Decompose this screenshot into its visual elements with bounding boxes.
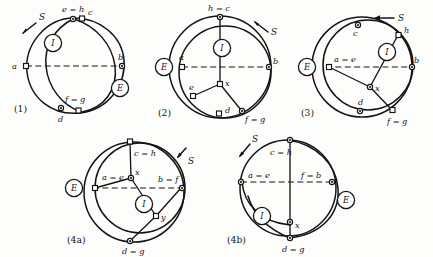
panel-4a-label-b-f: b = f [158,174,180,184]
panel-2-exterior-label: E [160,62,167,72]
panel-2-label-d: d [225,105,230,115]
panel-4b-point-c-h-dot [289,139,291,141]
panel-4a-point-c-h [128,139,133,144]
panel-1-label-top: e = h [62,4,84,14]
panel-3-seg-x-fg [370,87,392,110]
panel-3-point-c-dot [357,24,359,26]
panel-3-point-d-dot [359,110,361,112]
panel-1-point-c [80,16,85,21]
panel-1-point-d-dot [60,107,62,109]
panel-3-seg-x-h [370,35,398,87]
panel-3-exterior-label: E [303,62,310,72]
panel-1-label-b: b [118,52,123,62]
panel-1-point-a [24,64,29,69]
panel-3-point-h [396,33,401,38]
panel-1-label-d: d [58,114,63,124]
panel-3-label-b: b [414,55,419,65]
panel-4b-label-x: x [295,220,300,230]
panel-3-point-a-e [327,65,332,70]
panel-3-label-d: d [358,97,363,107]
panel-2-point-h-c-dot [219,16,221,18]
panel-4b-point-f-b-dot [331,181,333,183]
panel-4a-exterior-label: E [70,183,77,193]
panel-4a-seg-x-top [130,142,131,178]
panel-3-label-f-g: f = g [386,116,407,126]
panel-4a-point-a-e [93,186,98,191]
panel-2-point-f-g-dot [241,110,243,112]
panel-1-interior-label: I [50,38,55,48]
panel-1-point-f-g [76,108,81,113]
panel-2-point-x [218,82,223,87]
figure-canvas: I E S e = h c a b f = g d (1) [0,0,433,257]
panel-1-point-e-h-dot [72,18,74,20]
panel-4a-point-y [154,214,159,219]
panel-4b-point-a-e-dot [240,181,242,183]
panel-1-point-b-dot [121,65,123,67]
panel-4a-point-d-g-dot [129,240,131,242]
panel-4b-label-f-b: f = b [300,170,321,180]
panel-2-seg-x-e [193,84,220,96]
panel-1-label-a: a [12,61,17,71]
panel-4b-number: (4b) [227,234,246,245]
panel-1-label-f-g: f = g [64,94,85,104]
panel-3-curve-label: S [398,13,404,23]
panel-4b-exterior-label: E [342,195,349,205]
panel-4b-point-d-g-dot [289,237,291,239]
panel-2-label-e: e [189,82,194,92]
panel-3-point-b-dot [411,66,413,68]
panel-4a: I E S c = h a = e x b = f y d = g (4a) [58,130,213,257]
panel-4b: I E S c = h a = e f = b x d = g (4b) [218,130,373,257]
panel-2-point-e [191,94,196,99]
panel-2-number: (2) [158,107,171,118]
panel-4b-interior-label: I [259,211,264,221]
panel-3-label-x: x [375,83,380,93]
panel-1-exterior-label: E [116,83,123,93]
panel-4a-interior-label: I [141,199,146,209]
panel-4a-number: (4a) [67,234,86,245]
panel-2-interior-label: I [219,43,224,53]
panel-2-point-b-dot [268,66,270,68]
panel-1: I E S e = h c a b f = g d (1) [0,0,148,132]
panel-3-label-c: c [353,28,358,38]
panel-2-label-a: a [179,52,184,62]
panel-4a-point-b-f-dot [181,187,183,189]
panel-3-seg-x-ae [329,67,370,87]
panel-3-point-f-g [390,108,395,113]
panel-4b-label-d-g: d = g [282,244,305,254]
panel-2-point-a [180,65,185,70]
panel-4a-label-x: x [135,167,140,177]
panel-3-number: (3) [301,107,314,118]
panel-1-label-c: c [88,7,93,17]
panel-3-label-a-e: a = e [334,54,356,64]
panel-2-seg-x-fg [220,84,241,110]
panel-2-label-x: x [225,78,230,88]
panel-4b-curve-label: S [252,134,258,144]
panel-1-curve-label: S [39,12,45,22]
panel-4b-label-top: c = h [270,147,292,157]
panel-3-interior-label: I [384,47,389,57]
panel-2-label-top: h = c [208,3,230,13]
panel-3-point-x-dot [369,86,371,88]
panel-2-label-b: b [273,56,278,66]
panel-2-point-d [217,111,222,116]
panel-4a-seg-y-dg [130,216,156,241]
panel-4a-label-y: y [160,212,166,222]
panel-4a-label-a-e: a = e [102,172,124,182]
panel-2: I E S h = c a b x e d f = g (2) [145,0,293,132]
panel-4a-seg-y-bf [156,188,181,216]
panel-1-number: (1) [14,103,27,114]
panel-4a-label-top: c = h [134,148,156,158]
panel-4a-point-x-dot [130,177,132,179]
panel-4a-label-d-g: d = g [122,246,145,256]
panel-3: I E S c h a = e b x d f = g (3) [288,0,433,132]
panel-2-label-f-g: f = g [244,114,265,124]
panel-2-curve-label: S [271,27,277,37]
panel-4a-curve-label: S [188,156,194,166]
panel-4b-label-a-e: a = e [248,170,270,180]
panel-4b-point-x-dot [289,221,291,223]
panel-3-label-h: h [404,25,409,35]
